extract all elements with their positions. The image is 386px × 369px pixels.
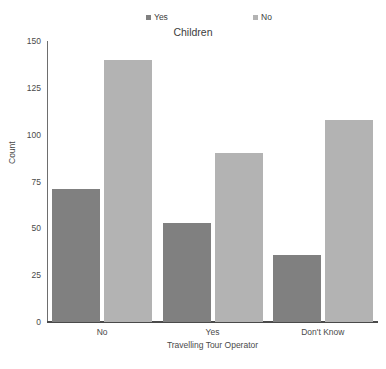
bar-no-yes[interactable] bbox=[52, 189, 100, 322]
legend-swatch-icon bbox=[253, 15, 258, 20]
legend-item-yes[interactable]: Yes bbox=[146, 12, 168, 22]
x-axis-tick: No bbox=[97, 327, 108, 337]
bar-yes-no[interactable] bbox=[215, 153, 263, 322]
x-axis-label: Travelling Tour Operator bbox=[47, 340, 378, 350]
legend-swatch-icon bbox=[146, 15, 151, 20]
bar-no-no[interactable] bbox=[104, 60, 152, 322]
y-axis-tick: 25 bbox=[32, 271, 41, 280]
bar-don-t-know-yes[interactable] bbox=[273, 255, 321, 322]
y-axis-tick: 125 bbox=[27, 83, 41, 92]
y-axis-tick: 50 bbox=[32, 224, 41, 233]
y-axis-label: Count bbox=[8, 141, 17, 164]
chart-legend: YesNo bbox=[0, 12, 386, 26]
y-axis-line bbox=[47, 41, 48, 322]
legend-item-no[interactable]: No bbox=[253, 12, 272, 22]
bar-yes-yes[interactable] bbox=[163, 223, 211, 322]
plot-area: 0255075100125150 bbox=[47, 41, 378, 322]
y-axis-tick: 75 bbox=[32, 177, 41, 186]
bar-don-t-know-no[interactable] bbox=[325, 120, 373, 322]
y-axis-tick: 0 bbox=[36, 318, 41, 327]
x-axis-tick: Yes bbox=[206, 327, 220, 337]
bar-chart: YesNo Children 0255075100125150 Count Tr… bbox=[0, 0, 386, 369]
y-axis-tick: 100 bbox=[27, 130, 41, 139]
legend-item-label: Yes bbox=[154, 12, 168, 22]
y-axis-tick: 150 bbox=[27, 37, 41, 46]
legend-item-label: No bbox=[261, 12, 272, 22]
chart-title: Children bbox=[0, 26, 386, 39]
x-axis-tick: Don't Know bbox=[301, 327, 344, 337]
